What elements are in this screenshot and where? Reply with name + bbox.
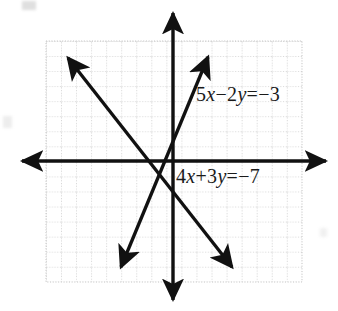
line1-var-x: x (206, 83, 215, 105)
line1-equals: = (247, 83, 259, 105)
line2-equals: = (227, 165, 239, 187)
line2-operator: + (196, 165, 208, 187)
line1-coefficient-y: 2 (227, 83, 237, 105)
line1-operator: − (216, 83, 228, 105)
coordinate-plane-svg (0, 0, 338, 311)
line1-var-y: y (237, 83, 246, 105)
line2-coefficient-x: 4 (176, 165, 186, 187)
line2-var-y: y (217, 165, 226, 187)
equation-label-line2: 4x+3y=−7 (176, 165, 260, 188)
line1-constant: −3 (258, 83, 280, 105)
line1-coefficient-x: 5 (196, 83, 206, 105)
graph-figure: 5x−2y=−3 4x+3y=−7 (0, 0, 338, 311)
line2-constant: −7 (238, 165, 260, 187)
line2-coefficient-y: 3 (207, 165, 217, 187)
equation-label-line1: 5x−2y=−3 (196, 83, 280, 106)
line2-var-x: x (186, 165, 195, 187)
